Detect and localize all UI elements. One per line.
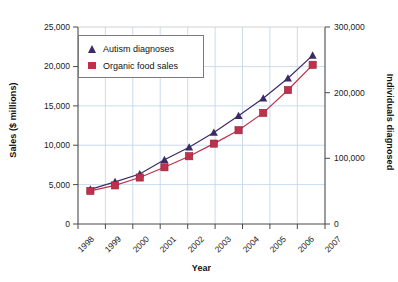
ytick-right-100000: 100,000	[334, 153, 384, 163]
legend-label-organic-food-sales: Organic food sales	[103, 61, 178, 71]
data-point	[186, 153, 193, 160]
legend-item-organic-food-sales: Organic food sales	[86, 57, 203, 74]
legend-label-autism-diagnoses: Autism diagnoses	[103, 44, 174, 54]
y-axis-right-title: Individuals diagnosed	[385, 62, 395, 182]
y-axis-left-title: Sales ($ millions)	[8, 60, 18, 180]
ytick-left-25000: 25,000	[24, 22, 70, 32]
data-point	[284, 86, 291, 93]
series-line-organic-food-sales	[90, 65, 312, 191]
chart-legend: Autism diagnoses Organic food sales	[78, 35, 204, 78]
bottom-axis-ticks	[78, 224, 325, 229]
data-point	[161, 164, 168, 171]
data-point	[210, 140, 217, 147]
data-point	[235, 127, 242, 134]
ytick-left-10000: 10,000	[24, 140, 70, 150]
triangle-marker-icon	[86, 45, 98, 53]
data-point	[136, 174, 143, 181]
ytick-left-20000: 20,000	[24, 61, 70, 71]
ytick-left-5000: 5,000	[24, 180, 70, 190]
data-point	[309, 61, 316, 68]
ytick-right-0: 0	[334, 219, 384, 229]
data-point	[87, 187, 94, 194]
ytick-right-300000: 300,000	[334, 22, 384, 32]
data-point	[210, 129, 218, 136]
ytick-left-15000: 15,000	[24, 101, 70, 111]
right-axis-ticks	[325, 27, 330, 224]
data-point	[235, 112, 243, 119]
legend-item-autism-diagnoses: Autism diagnoses	[86, 40, 203, 57]
data-point	[160, 156, 168, 163]
data-point	[111, 182, 118, 189]
data-point	[309, 51, 317, 58]
data-point	[185, 143, 193, 150]
ytick-left-0: 0	[24, 219, 70, 229]
data-point	[260, 109, 267, 116]
square-marker-icon	[86, 62, 98, 70]
horizontal-gridlines	[78, 67, 325, 185]
x-axis-title: Year	[78, 263, 325, 273]
chart-figure: 25,000 20,000 15,000 10,000 5,000 0 300,…	[0, 0, 398, 282]
ytick-right-200000: 200,000	[334, 88, 384, 98]
